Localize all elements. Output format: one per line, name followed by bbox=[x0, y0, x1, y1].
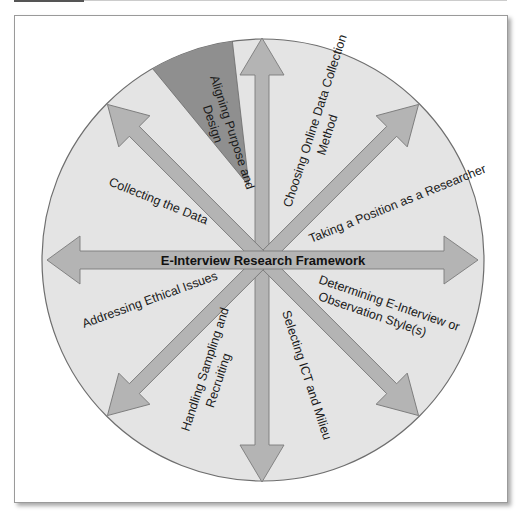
diagram-title: E-Interview Research Framework bbox=[161, 253, 366, 268]
framework-diagram: E-Interview Research Framework Aligning … bbox=[0, 0, 527, 522]
